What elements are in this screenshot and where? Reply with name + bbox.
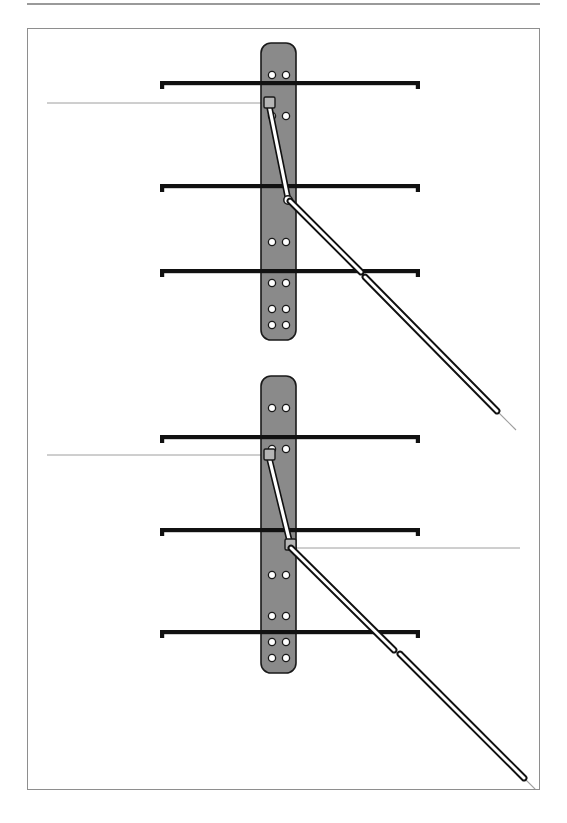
plate-hole-6-2 bbox=[282, 654, 289, 661]
rod-upper-core bbox=[290, 201, 361, 272]
rod-lower-core bbox=[400, 654, 524, 778]
upper-pivot-block bbox=[264, 449, 275, 460]
bar-bottom-hook-left bbox=[160, 630, 164, 638]
bar-middle-hook-left bbox=[160, 184, 164, 192]
bar-top-span bbox=[160, 81, 420, 85]
plate-hole-6-1 bbox=[268, 654, 275, 661]
mounting-plate bbox=[261, 376, 296, 673]
plate-hole-3-2 bbox=[282, 238, 289, 245]
plate-hole-1-2 bbox=[282, 71, 289, 78]
plate-hole-4-2 bbox=[282, 279, 289, 286]
plate-hole-2-2 bbox=[282, 445, 289, 452]
bar-bottom-hook-right bbox=[416, 630, 420, 638]
bar-middle-hook-right bbox=[416, 184, 420, 192]
plate-hole-1-2 bbox=[282, 404, 289, 411]
header-rule bbox=[27, 3, 540, 5]
bar-bottom-hook-left bbox=[160, 269, 164, 277]
technical-drawing bbox=[28, 29, 539, 789]
bar-top-hook-right bbox=[416, 81, 420, 89]
bar-top-hook-left bbox=[160, 435, 164, 443]
bar-middle-span bbox=[160, 184, 420, 188]
plate-hole-4-1 bbox=[268, 279, 275, 286]
plate-hole-5-2 bbox=[282, 638, 289, 645]
plate-hole-4-2 bbox=[282, 612, 289, 619]
plate-hole-2-2 bbox=[282, 112, 289, 119]
bar-top-hook-right bbox=[416, 435, 420, 443]
plate-hole-5-2 bbox=[282, 305, 289, 312]
plate-hole-5-1 bbox=[268, 638, 275, 645]
plate-hole-3-2 bbox=[282, 571, 289, 578]
rod-lower-core bbox=[365, 277, 497, 411]
bar-bottom-hook-right bbox=[416, 269, 420, 277]
bar-middle-hook-left bbox=[160, 528, 164, 536]
plate-hole-4-1 bbox=[268, 612, 275, 619]
plate-hole-3-1 bbox=[268, 571, 275, 578]
rod-upper-core bbox=[291, 548, 394, 650]
upper-pivot-block bbox=[264, 97, 275, 108]
bar-top-hook-left bbox=[160, 81, 164, 89]
mounting-plate bbox=[261, 43, 296, 340]
page-root bbox=[0, 0, 567, 823]
plate-hole-3-1 bbox=[268, 238, 275, 245]
plate-hole-5-1 bbox=[268, 305, 275, 312]
lower-assembly bbox=[47, 376, 539, 789]
plate-hole-6-1 bbox=[268, 321, 275, 328]
bar-middle-hook-right bbox=[416, 528, 420, 536]
upper-assembly bbox=[47, 43, 516, 430]
bar-bottom-span bbox=[160, 269, 420, 273]
plate-hole-6-2 bbox=[282, 321, 289, 328]
figure-frame bbox=[27, 28, 540, 790]
bar-top-span bbox=[160, 435, 420, 439]
plate-hole-1-1 bbox=[268, 404, 275, 411]
plate-hole-1-1 bbox=[268, 71, 275, 78]
